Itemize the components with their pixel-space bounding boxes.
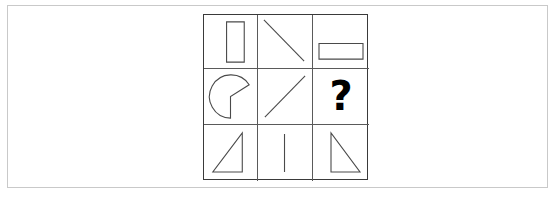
vertical-rectangle-icon [204,15,257,68]
horizontal-rectangle-icon [313,15,369,68]
matrix-puzzle-grid: ? [203,14,368,180]
puzzle-cell-r2c2[interactable] [258,69,313,125]
diagonal-line-slash-icon [258,69,312,124]
puzzle-cell-r3c1[interactable] [204,125,258,181]
right-triangle-vertical-left-icon [313,125,369,181]
puzzle-cell-r1c1[interactable] [204,15,258,69]
puzzle-cell-r3c2[interactable] [258,125,313,181]
diagonal-line-backslash-icon [258,15,312,68]
puzzle-cell-r2c3-missing[interactable]: ? [313,69,369,125]
puzzle-cell-r3c3[interactable] [313,125,369,181]
puzzle-cell-r1c2[interactable] [258,15,313,69]
screenshot-canvas: ? [0,0,558,199]
vertical-line-icon [258,125,312,181]
puzzle-cell-r2c1[interactable] [204,69,258,125]
question-mark-label: ? [313,69,369,124]
pacman-circle-icon [204,69,257,124]
puzzle-cell-r1c3[interactable] [313,15,369,69]
right-triangle-vertical-right-icon [204,125,257,181]
